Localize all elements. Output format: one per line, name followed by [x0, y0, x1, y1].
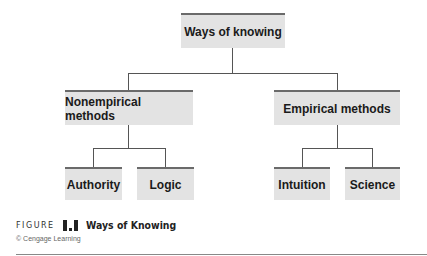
connector-logic-up — [165, 148, 166, 167]
figure-number-bar-icon — [63, 220, 67, 231]
node-logic: Logic — [137, 167, 194, 200]
connector-empirical-children-horizontal — [302, 148, 373, 149]
bottom-rule-divider — [16, 254, 427, 255]
figure-number-bar-icon — [74, 220, 78, 231]
node-label: Logic — [150, 178, 182, 192]
node-authority: Authority — [65, 167, 122, 200]
connector-level1-horizontal — [128, 73, 338, 74]
figure-word: FIGURE — [16, 221, 55, 230]
node-empirical-methods: Empirical methods — [274, 90, 400, 125]
node-label: Science — [350, 178, 395, 192]
figure-number-dot-icon — [69, 228, 72, 231]
connector-nonempirical-up — [128, 73, 129, 90]
connector-nonempirical-children-horizontal — [93, 148, 165, 149]
node-ways-of-knowing: Ways of knowing — [181, 13, 285, 48]
figure-number-glyph — [63, 220, 78, 231]
node-label: Ways of knowing — [184, 25, 282, 39]
node-nonempirical-methods: Nonempirical methods — [65, 90, 193, 125]
node-intuition: Intuition — [274, 167, 330, 200]
node-label: Authority — [67, 178, 120, 192]
figure-caption: FIGURE Ways of Knowing — [16, 219, 192, 232]
connector-root-down — [232, 48, 233, 74]
node-label: Empirical methods — [283, 102, 390, 116]
connector-authority-up — [93, 148, 94, 167]
figure-credit: © Cengage Learning — [16, 235, 81, 242]
connector-empirical-down — [337, 125, 338, 149]
figure-title: Ways of Knowing — [86, 219, 176, 232]
connector-nonempirical-down — [128, 125, 129, 149]
connector-science-up — [372, 148, 373, 167]
node-science: Science — [345, 167, 400, 200]
node-label: Nonempirical methods — [65, 95, 193, 123]
connector-intuition-up — [302, 148, 303, 167]
node-label: Intuition — [278, 178, 325, 192]
connector-empirical-up — [337, 73, 338, 90]
